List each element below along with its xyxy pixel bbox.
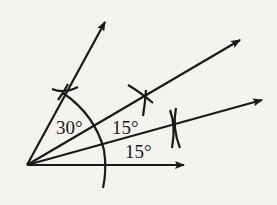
- cross-mark-15: [170, 108, 180, 148]
- ray-60deg: [27, 22, 105, 165]
- angle-label-15-lower: 15°: [125, 141, 152, 162]
- angle-label-15-upper: 15°: [112, 117, 139, 138]
- angle-diagram: 30° 15° 15°: [0, 0, 277, 205]
- diagram-canvas: 30° 15° 15°: [0, 0, 277, 205]
- cross-mark-30: [128, 85, 153, 116]
- angle-label-30: 30°: [56, 117, 83, 138]
